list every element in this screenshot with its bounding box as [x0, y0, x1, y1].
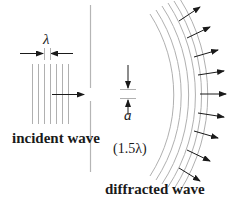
wavelength-label: λ — [43, 31, 50, 48]
slit-width-value: (1.5λ) — [113, 141, 147, 157]
diffraction-diagram — [0, 0, 236, 207]
incident-wave-label: incident wave — [12, 130, 100, 147]
diffracted-wave-label: diffracted wave — [105, 181, 205, 198]
diffracted-direction-arrows — [179, 7, 226, 181]
slit-width-symbol: a — [124, 107, 132, 124]
diffracted-wavefronts — [150, 0, 208, 191]
